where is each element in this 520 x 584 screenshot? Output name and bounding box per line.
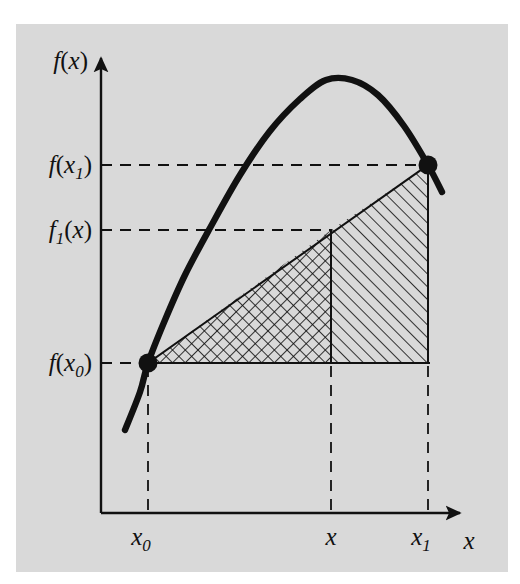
y-axis-label: f(x) (53, 47, 88, 75)
point-x0-marker (139, 354, 158, 373)
figure-root: f(x) f(x1) f1(x) f(x0) x0 x (0, 0, 520, 584)
point-x1-marker (419, 156, 438, 175)
x-tick-label-x: x (324, 523, 336, 550)
figure-canvas: f(x) f(x1) f1(x) f(x0) x0 x (0, 0, 520, 584)
x-axis-label: x (462, 527, 474, 554)
